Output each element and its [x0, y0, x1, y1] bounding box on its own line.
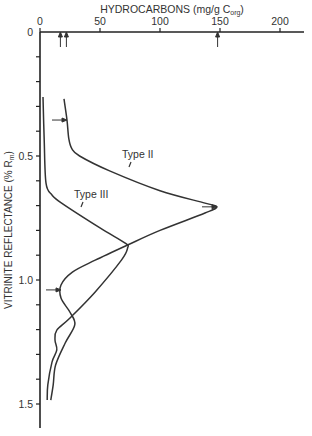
x-tick-label: 150	[211, 15, 229, 27]
y-tick-label: 0	[27, 26, 33, 38]
annotation-arrows	[46, 32, 220, 292]
x-tick-label: 50	[94, 15, 106, 27]
y-ticks: 00.51.01.5	[18, 26, 40, 410]
label-pointer-type-ii	[129, 162, 131, 167]
label-pointer-type-iii	[81, 202, 83, 207]
series-label-type-ii: Type II	[122, 148, 154, 160]
series-label-type-iii: Type III	[74, 188, 108, 200]
y-tick-label: 1.0	[18, 274, 33, 286]
y-axis-label: VITRINITE REFLECTANCE (% Rm)	[3, 151, 15, 309]
hydrocarbon-generation-chart: 050100150200 00.51.01.5 HYDROCARBONS (mg…	[0, 0, 312, 436]
x-axis-label: HYDROCARBONS (mg/g Corg)	[100, 3, 244, 17]
x-tick-label: 0	[37, 15, 43, 27]
series-type-ii-curve	[51, 99, 217, 400]
x-tick-label: 100	[151, 15, 169, 27]
series-type-iii-curve	[43, 97, 128, 400]
x-tick-label: 200	[271, 15, 289, 27]
x-ticks: 050100150200	[37, 15, 289, 32]
y-tick-label: 1.5	[18, 398, 33, 410]
y-tick-label: 0.5	[18, 150, 33, 162]
